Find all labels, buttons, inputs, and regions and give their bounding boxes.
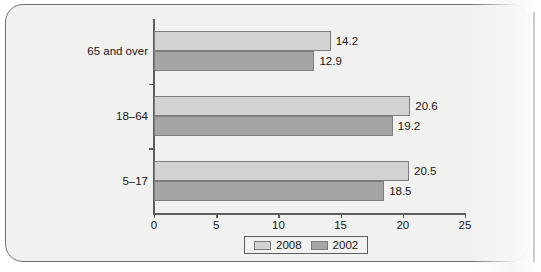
bar-value-label: 20.5 (414, 165, 436, 177)
x-axis-tick-label: 15 (334, 219, 347, 231)
x-axis-tick-label: 25 (459, 219, 472, 231)
scan-page-edge (533, 12, 535, 262)
x-axis-tick (216, 213, 217, 218)
x-axis-tick-label: 0 (151, 219, 157, 231)
x-axis-tick-label: 5 (213, 219, 219, 231)
x-axis-tick-label: 20 (396, 219, 409, 231)
bar-2008-18-64 (154, 96, 410, 116)
x-axis-tick-label: 10 (272, 219, 285, 231)
bar-value-label: 12.9 (319, 55, 341, 67)
x-axis-tick (278, 213, 279, 218)
x-axis-tick (154, 213, 155, 218)
chart-panel: 051015202565 and over14.212.918–6420.619… (5, 4, 529, 262)
legend-label: 2002 (333, 239, 359, 251)
x-axis-tick (341, 213, 342, 218)
chart-legend: 20082002 (244, 236, 368, 254)
x-axis-tick (465, 213, 466, 218)
y-axis-category-label: 65 and over (87, 45, 148, 57)
bar-2002-65-and-over (154, 51, 314, 71)
bar-value-label: 19.2 (398, 120, 420, 132)
y-axis-tick (149, 84, 154, 85)
x-axis-line (153, 213, 465, 215)
plot-area: 051015202565 and over14.212.918–6420.619… (154, 19, 465, 213)
legend-item-2008: 2008 (254, 239, 302, 251)
legend-swatch-2008 (254, 241, 271, 250)
bar-2008-5-17 (154, 161, 409, 181)
y-axis-category-label: 5–17 (122, 175, 148, 187)
legend-item-2002: 2002 (311, 239, 359, 251)
bar-value-label: 20.6 (415, 100, 437, 112)
legend-swatch-2002 (311, 241, 328, 250)
bar-value-label: 14.2 (336, 35, 358, 47)
y-axis-category-label: 18–64 (116, 110, 148, 122)
legend-label: 2008 (276, 239, 302, 251)
bar-2002-5-17 (154, 181, 384, 201)
x-axis-tick (403, 213, 404, 218)
bar-2008-65-and-over (154, 31, 331, 51)
bar-value-label: 18.5 (389, 185, 411, 197)
y-axis-tick (149, 148, 154, 149)
bar-2002-18-64 (154, 116, 393, 136)
figure: 051015202565 and over14.212.918–6420.619… (0, 0, 541, 272)
